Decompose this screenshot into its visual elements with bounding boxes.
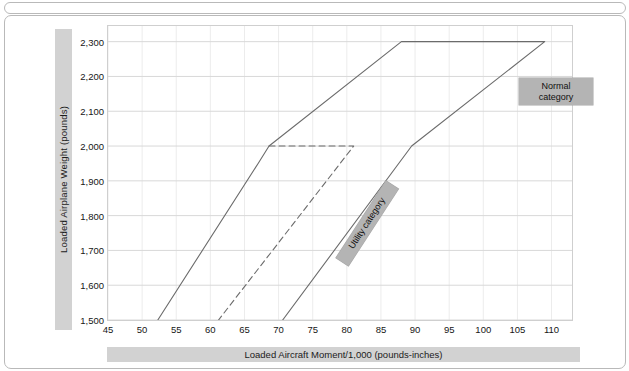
x-tick-label: 50 (127, 324, 157, 335)
x-tick-label: 70 (264, 324, 294, 335)
y-tick-label: 1,600 (62, 280, 104, 291)
x-tick-label: 95 (434, 324, 464, 335)
x-axis-tick-labels: 4550556065707580859095100105110 (107, 324, 573, 338)
x-axis-title: Loaded Aircraft Moment/1,000 (pounds-inc… (107, 347, 580, 362)
y-tick-label: 2,300 (62, 36, 104, 47)
x-tick-label: 65 (229, 324, 259, 335)
y-tick-label: 2,100 (62, 106, 104, 117)
x-tick-label: 90 (400, 324, 430, 335)
annotation-normal-line2: category (525, 92, 587, 103)
x-tick-label: 110 (537, 324, 567, 335)
x-tick-label: 85 (366, 324, 396, 335)
figure-page: Loaded Airplane Weight (pounds) 1,5001,6… (0, 0, 629, 371)
envelope-utility (219, 146, 354, 320)
page-top-strip (4, 2, 626, 14)
x-tick-label: 45 (93, 324, 123, 335)
y-tick-label: 1,700 (62, 245, 104, 256)
annotation-normal-category: Normal category (519, 78, 593, 105)
x-tick-label: 105 (502, 324, 532, 335)
y-axis-tick-labels: 1,5001,6001,7001,8001,9002,0002,1002,200… (62, 25, 104, 321)
y-tick-label: 2,000 (62, 141, 104, 152)
x-tick-label: 80 (332, 324, 362, 335)
plot-area: Normal category Utility category (107, 25, 573, 321)
y-tick-label: 1,900 (62, 175, 104, 186)
y-tick-label: 1,800 (62, 210, 104, 221)
x-tick-label: 100 (468, 324, 498, 335)
y-tick-label: 2,200 (62, 71, 104, 82)
x-tick-label: 60 (195, 324, 225, 335)
x-tick-label: 75 (298, 324, 328, 335)
annotation-normal-line1: Normal (525, 81, 587, 92)
x-tick-label: 55 (161, 324, 191, 335)
